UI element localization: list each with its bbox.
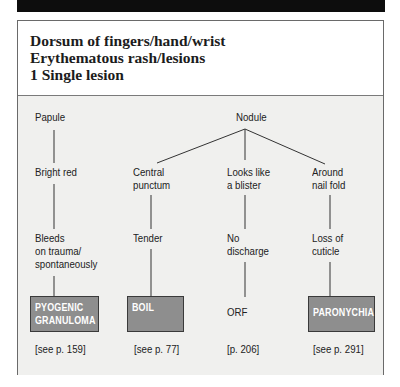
node-loss-of-cuticle-line1: Loss of — [312, 232, 343, 245]
paronychia-label: PARONYCHIA — [313, 301, 365, 319]
page-ref-pyogenic: [see p. 159] — [35, 343, 86, 355]
node-looks-like-blister: Looks like a blister — [227, 166, 270, 192]
diagnosis-paronychia: PARONYCHIA — [308, 296, 375, 332]
diagnosis-boil: BOIL — [127, 296, 184, 332]
boil-label: BOIL — [132, 301, 175, 314]
node-central-punctum-line2: punctum — [133, 179, 170, 192]
node-around-nail-fold-line1: Around — [312, 166, 345, 179]
node-central-punctum: Central punctum — [133, 166, 170, 192]
node-papule: Papule — [35, 111, 65, 124]
diagnosis-orf: ORF — [227, 306, 247, 319]
node-around-nail-fold: Around nail fold — [312, 166, 345, 192]
chapter-header-bar — [17, 0, 385, 12]
node-looks-like-blister-line1: Looks like — [227, 166, 270, 179]
node-bleeds: Bleeds on trauma/ spontaneously — [35, 232, 97, 271]
title-line-region: Dorsum of fingers/hand/wrist — [30, 33, 225, 49]
node-bright-red: Bright red — [35, 166, 77, 179]
title-line-presentation: Erythematous rash/lesions — [30, 50, 205, 66]
pyogenic-line1: PYOGENIC — [35, 301, 89, 314]
node-no-discharge-line1: No — [227, 232, 269, 245]
node-central-punctum-line1: Central — [133, 166, 170, 179]
node-looks-like-blister-line2: a blister — [227, 179, 270, 192]
title-line-subtype: 1 Single lesion — [30, 67, 124, 83]
page-ref-boil: [see p. 77] — [134, 343, 179, 355]
node-no-discharge: No discharge — [227, 232, 269, 258]
node-around-nail-fold-line2: nail fold — [312, 179, 345, 192]
diagnosis-pyogenic-granuloma: PYOGENICGRANULOMA — [30, 296, 99, 332]
node-loss-of-cuticle: Loss of cuticle — [312, 232, 343, 258]
node-loss-of-cuticle-line2: cuticle — [312, 245, 343, 258]
pyogenic-line2: GRANULOMA — [35, 314, 89, 327]
node-bleeds-line2: on trauma/ — [35, 245, 97, 258]
node-no-discharge-line2: discharge — [227, 245, 269, 258]
node-tender: Tender — [133, 232, 163, 245]
page-ref-paronychia: [see p. 291] — [313, 343, 364, 355]
page-ref-orf: [p. 206] — [227, 343, 259, 355]
node-bleeds-line1: Bleeds — [35, 232, 97, 245]
node-bleeds-line3: spontaneously — [35, 258, 97, 271]
node-nodule: Nodule — [236, 111, 267, 124]
title-section: Dorsum of fingers/hand/wrist Erythematou… — [18, 21, 383, 96]
